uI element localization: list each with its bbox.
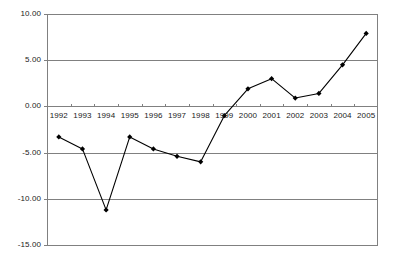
xtick-label: 1999 — [213, 111, 237, 120]
data-point-marker — [104, 207, 109, 212]
xtick-label: 1993 — [71, 111, 95, 120]
ytick-label: -15.00 — [18, 240, 41, 249]
xtick-label: 1995 — [118, 111, 142, 120]
xtick-label: 1994 — [94, 111, 118, 120]
xtick-label: 1996 — [142, 111, 166, 120]
gridline-group — [47, 15, 378, 246]
xtick-label: 2001 — [260, 111, 284, 120]
ytick-label: -5.00 — [22, 148, 41, 157]
xtick-label: 1992 — [47, 111, 71, 120]
line-chart-plot — [0, 0, 396, 262]
data-marker-group — [56, 31, 369, 213]
data-point-marker — [80, 146, 85, 151]
data-point-marker — [174, 154, 179, 159]
xtick-label: 2005 — [354, 111, 378, 120]
data-line-series-1 — [59, 33, 366, 209]
ytick-label: 10.00 — [20, 9, 41, 18]
xtick-label: 2000 — [236, 111, 260, 120]
xtick-label: 2002 — [283, 111, 307, 120]
ytick-mark-group — [44, 15, 47, 246]
data-point-marker — [56, 134, 61, 139]
xtick-label: 2003 — [307, 111, 331, 120]
xtick-label: 2004 — [331, 111, 355, 120]
chart-container: 10.005.000.00-5.00-10.00-15.00 199219931… — [0, 0, 396, 262]
axis-group — [47, 14, 378, 246]
data-point-marker — [198, 159, 203, 164]
xtick-label: 1997 — [165, 111, 189, 120]
ytick-label: 0.00 — [25, 101, 41, 110]
ytick-label: -10.00 — [18, 194, 41, 203]
data-point-marker — [151, 146, 156, 151]
xtick-label: 1998 — [189, 111, 213, 120]
data-point-marker — [127, 134, 132, 139]
ytick-label: 5.00 — [25, 55, 41, 64]
